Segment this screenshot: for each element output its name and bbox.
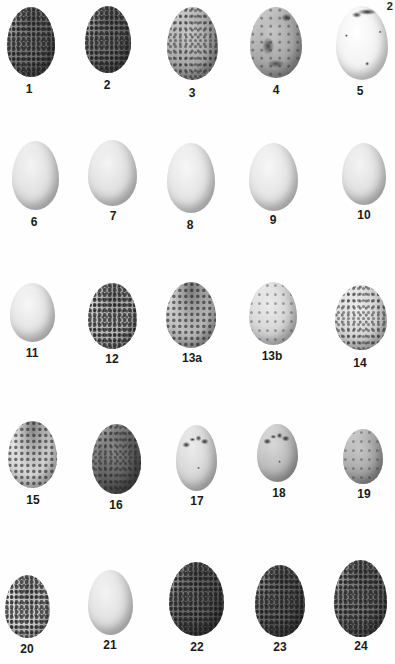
egg-pattern: [169, 562, 224, 636]
egg-label-17: 17: [190, 495, 203, 507]
egg-label-1: 1: [26, 83, 33, 95]
egg-2: [85, 6, 131, 73]
egg-label-5: 5: [357, 85, 364, 97]
egg-pattern: [92, 424, 141, 494]
egg-label-9: 9: [270, 214, 277, 226]
egg-label-19: 19: [357, 488, 370, 500]
egg-11: [10, 283, 55, 342]
egg-pattern: [257, 424, 298, 482]
egg-13a: [166, 282, 216, 348]
egg-pattern: [336, 6, 388, 80]
egg-label-2: 2: [104, 79, 111, 91]
egg-pattern: [8, 421, 57, 488]
egg-pattern: [166, 282, 216, 348]
egg-pattern: [334, 560, 387, 637]
egg-pattern: [167, 7, 218, 80]
egg-pattern: [7, 7, 55, 77]
egg-13b: [249, 282, 297, 345]
egg-8: [167, 143, 215, 213]
egg-19: [343, 429, 383, 484]
egg-label-11: 11: [26, 347, 39, 359]
egg-21: [88, 570, 133, 635]
egg-pattern: [85, 6, 131, 73]
egg-9: [249, 143, 298, 211]
egg-label-3: 3: [189, 87, 196, 99]
egg-label-10: 10: [357, 209, 370, 221]
egg-5: [336, 6, 388, 80]
egg-label-15: 15: [26, 494, 39, 506]
egg-17: [176, 425, 217, 491]
egg-16: [92, 424, 141, 494]
egg-24: [334, 560, 387, 637]
egg-12: [88, 283, 137, 349]
egg-pattern: [250, 7, 302, 78]
egg-label-16: 16: [109, 499, 122, 511]
egg-label-22: 22: [190, 641, 203, 653]
egg-pattern: [335, 285, 387, 350]
egg-label-18: 18: [272, 487, 285, 499]
egg-23: [255, 565, 305, 637]
egg-label-20: 20: [20, 643, 33, 655]
egg-pattern: [5, 575, 50, 638]
egg-pattern: [88, 283, 137, 349]
egg-label-23: 23: [273, 641, 286, 653]
page-number-fragment: 2: [387, 0, 395, 12]
egg-1: [7, 7, 55, 77]
egg-label-13a: 13a: [182, 352, 202, 364]
egg-14: [335, 285, 387, 350]
egg-20: [5, 575, 50, 638]
egg-label-24: 24: [354, 640, 367, 652]
egg-pattern: [249, 282, 297, 345]
egg-label-7: 7: [110, 210, 117, 222]
egg-7: [88, 140, 137, 206]
egg-18: [257, 424, 298, 482]
egg-label-13b: 13b: [262, 350, 283, 362]
egg-label-4: 4: [273, 84, 280, 96]
egg-label-21: 21: [103, 639, 116, 651]
egg-pattern: [343, 429, 383, 484]
egg-10: [342, 143, 386, 205]
egg-22: [169, 562, 224, 636]
egg-label-12: 12: [105, 353, 118, 365]
egg-pattern: [255, 565, 305, 637]
egg-pattern: [176, 425, 217, 491]
egg-label-14: 14: [353, 357, 366, 369]
egg-label-8: 8: [187, 219, 194, 231]
egg-4: [250, 7, 302, 78]
egg-label-6: 6: [31, 216, 38, 228]
egg-6: [12, 141, 59, 210]
egg-15: [8, 421, 57, 488]
egg-plate-page: 2 1 2 3 4 5 6 7 8 9 10 11 12 13a 13b 14 …: [0, 0, 395, 664]
egg-3: [167, 7, 218, 80]
